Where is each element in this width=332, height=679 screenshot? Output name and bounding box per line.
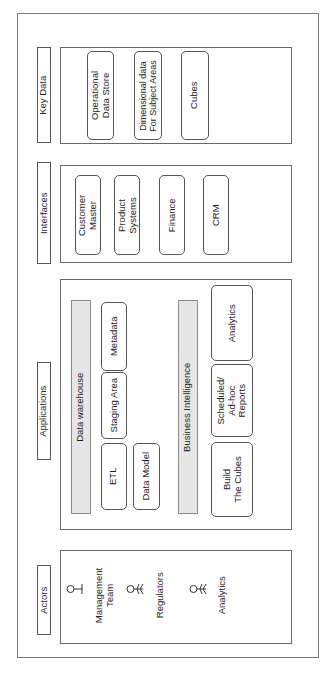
node-staging-area: Staging Area: [101, 372, 127, 439]
stick-figure-icon: [189, 582, 207, 596]
stick-figure-icon: [126, 582, 144, 596]
lane-label-applications: Applications: [37, 362, 51, 460]
node-crm: CRM: [203, 175, 229, 255]
group-data-warehouse: Data warehouse: [71, 300, 91, 514]
group-title: Business Intelligence: [183, 362, 194, 451]
node-product-systems: Product Systems: [114, 175, 140, 255]
node-cubes: Cubes: [181, 51, 209, 140]
node-data-model: Data Model: [133, 443, 160, 510]
node-operational-data-store: Operational Data Store: [87, 51, 114, 140]
lane-title: Interfaces: [39, 192, 50, 234]
lane-title: Actors: [39, 587, 50, 614]
node-build-the-cubes: Build The Cubes: [211, 442, 253, 517]
group-business-intelligence: Business Intelligence: [178, 300, 198, 514]
node-finance: Finance: [159, 175, 185, 255]
node-scheduled-adhoc-reports: Scheduled/ Ad-hoc Reports: [211, 364, 253, 437]
node-etl: ETL: [101, 443, 127, 510]
lane-applications: [60, 279, 292, 530]
person-icon: [66, 582, 84, 596]
lane-label-key-data: Key Data: [37, 47, 51, 143]
actor-label-regulators: Regulators: [150, 560, 170, 630]
lane-label-actors: Actors: [37, 565, 51, 635]
lane-label-interfaces: Interfaces: [37, 162, 51, 264]
group-title: Data warehouse: [76, 372, 87, 441]
node-metadata: Metadata: [101, 302, 127, 371]
node-dimensional-data: Dimensional data For Subject Areas: [134, 51, 162, 140]
lane-title: Applications: [39, 385, 50, 436]
actor-label-management-team: Management Team: [92, 560, 118, 630]
actor-label-analytics: Analytics: [212, 560, 232, 630]
node-customer-master: Customer Master: [75, 175, 101, 255]
node-analytics: Analytics: [211, 285, 253, 361]
lane-title: Key Data: [39, 75, 50, 114]
